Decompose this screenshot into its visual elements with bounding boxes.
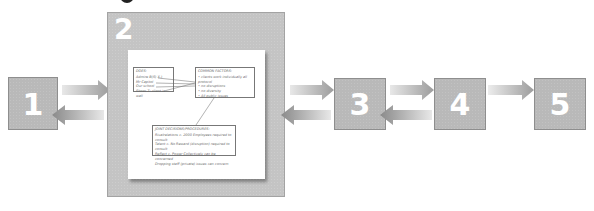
arrow-right-4-to-5 [488, 80, 536, 100]
step-number-3: 3 [335, 87, 385, 122]
step-number-2: 2 [114, 13, 133, 46]
arrow-left-4-to-3 [380, 105, 432, 125]
connector-lines [128, 50, 265, 179]
arrow-left-3-to-2 [281, 105, 331, 125]
arrow-right-3-to-4 [390, 80, 436, 100]
arrow-left-2-to-1 [52, 105, 104, 125]
arrow-right-1-to-2 [62, 80, 112, 100]
step-box-1: 1 [8, 77, 58, 130]
document-page: DOES: Admire B(S) X.) Mr Capitol Our sch… [128, 50, 265, 179]
step-box-4: 4 [434, 78, 486, 130]
step-number-5: 5 [535, 87, 585, 122]
step-box-3: 3 [334, 78, 386, 130]
top-partial-shape [120, 0, 134, 3]
step-number-1: 1 [9, 86, 57, 121]
arrow-right-2-to-3 [290, 80, 336, 100]
step-box-5: 5 [534, 78, 586, 130]
step-number-4: 4 [435, 87, 485, 122]
